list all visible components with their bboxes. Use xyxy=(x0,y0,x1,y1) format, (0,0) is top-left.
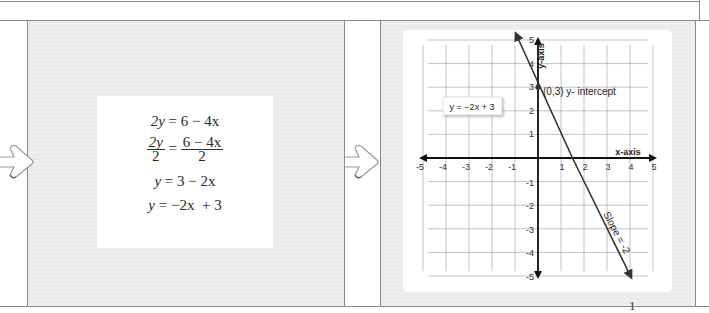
y-axis-label: y-axis xyxy=(536,43,546,69)
y-tick-label: -3 xyxy=(526,225,534,235)
x-tick-label: -1 xyxy=(508,162,516,172)
y-tick-label: 2 xyxy=(529,106,534,116)
equation-legend-text: y = −2x + 3 xyxy=(450,102,495,112)
y-tick-label: 5 xyxy=(529,35,534,45)
x-tick-label: 3 xyxy=(605,162,610,172)
y-tick-label: -4 xyxy=(526,248,534,258)
x-tick-label: -5 xyxy=(416,162,424,172)
x-tick-label: -3 xyxy=(462,162,470,172)
x-tick-label: 5 xyxy=(651,162,656,172)
x-tick-label: -2 xyxy=(485,162,493,172)
y-tick-label: 3 xyxy=(529,82,534,92)
x-axis-label: x-axis xyxy=(615,147,641,157)
y-tick-label: -5 xyxy=(526,272,534,282)
y-intercept-label: (0,3) y- intercept xyxy=(543,86,616,97)
page-number: 1 xyxy=(629,298,636,313)
series-line-lower xyxy=(573,158,632,277)
coordinate-graph: -5-4-3-2-11234554321-1-2-3-4-5 x-axis y-… xyxy=(0,0,709,313)
x-tick-label: 2 xyxy=(582,162,587,172)
x-tick-label: -4 xyxy=(439,162,447,172)
y-tick-label: -1 xyxy=(526,178,534,188)
y-tick-label: -2 xyxy=(526,201,534,211)
x-tick-label: 4 xyxy=(628,162,633,172)
x-tick-label: 1 xyxy=(559,162,564,172)
y-intercept-point xyxy=(535,85,540,90)
y-tick-label: 1 xyxy=(529,129,534,139)
